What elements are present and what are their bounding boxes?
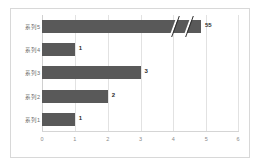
bar-series1[interactable] (42, 113, 75, 126)
xtick-label-6: 6 (231, 135, 245, 144)
xtick-label-4: 4 (166, 135, 180, 144)
plot-area: 55 1 3 2 1 (42, 15, 239, 131)
xtick-label-1: 1 (68, 135, 82, 144)
category-label-series3: 系列3 (14, 69, 40, 78)
xtick-label-3: 3 (134, 135, 148, 144)
bar-series3[interactable] (42, 66, 141, 79)
bar-row: 1 (42, 38, 239, 61)
category-label-series4: 系列4 (14, 46, 40, 55)
data-label-series2: 2 (112, 89, 115, 102)
bar-series2[interactable] (42, 90, 108, 103)
xtick-label-0: 0 (35, 135, 49, 144)
value-axis-line (42, 131, 239, 132)
category-label-series5: 系列5 (14, 23, 40, 32)
bar-row: 2 (42, 85, 239, 108)
bar-row: 3 (42, 61, 239, 84)
data-label-series1: 1 (79, 112, 82, 125)
data-label-series5: 55 (205, 19, 212, 32)
bar-row: 1 (42, 108, 239, 131)
bar-series4[interactable] (42, 43, 75, 56)
category-label-series2: 系列2 (14, 93, 40, 102)
category-label-series1: 系列1 (14, 116, 40, 125)
chart-frame: 55 1 3 2 1 系列5 系列4 系列3 系列2 系列1 0 1 2 3 4 (10, 8, 250, 158)
data-label-series3: 3 (145, 65, 148, 78)
xtick-label-2: 2 (101, 135, 115, 144)
bar-row: 55 (42, 15, 239, 38)
data-label-series4: 1 (79, 42, 82, 55)
xtick-label-5: 5 (199, 135, 213, 144)
